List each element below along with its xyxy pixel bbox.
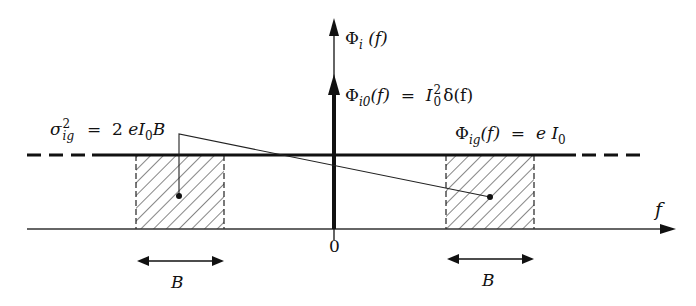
delta-label: Φi0(f) = I20δ(f): [345, 84, 473, 108]
right-band-box: [446, 155, 534, 229]
right-bandwidth-label: B: [482, 272, 495, 289]
origin-label: 0: [329, 238, 340, 255]
delta-impulse: [328, 74, 340, 229]
left-band-box: [136, 155, 224, 229]
psd-axis-label: Φi (f): [345, 30, 388, 47]
axis-arrow-icon: [660, 224, 676, 234]
right-bandwidth-arrow: [447, 254, 534, 264]
impulse-arrow-icon: [328, 74, 340, 95]
noise-level-label: Φig(f) = e I0: [455, 125, 566, 142]
frequency-axis: [27, 224, 676, 234]
left-bandwidth-label: B: [171, 274, 184, 291]
axis-arrow-icon: [329, 18, 339, 36]
left-bandwidth-arrow: [137, 256, 224, 266]
variance-label: σ2ig = 2 eI0B: [50, 118, 165, 142]
frequency-axis-label: f: [655, 200, 662, 219]
